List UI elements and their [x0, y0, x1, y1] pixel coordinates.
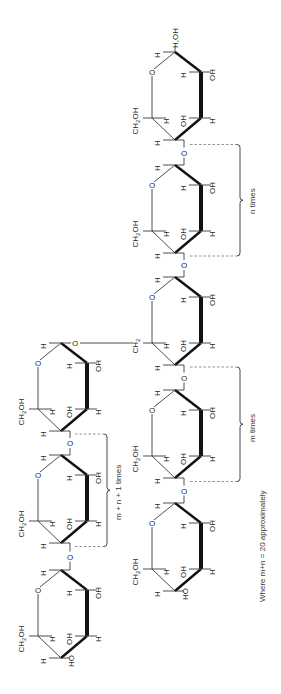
ring-oxygen: O: [35, 359, 41, 368]
hydroxyl-label: OH: [94, 587, 103, 599]
hydrogen-label: H: [208, 343, 217, 349]
ch2oh-group: CH2OH: [17, 625, 27, 652]
glycosidic-links: OOOOOOO: [61, 140, 187, 570]
hydrogen-label: H: [208, 569, 217, 575]
glucose-rings: OCH2OHHHOHOHHHH,OHHOCH2OHHHOHOHHHHOCH2HH…: [17, 28, 217, 667]
ch2oh-group: CH2OH: [131, 558, 141, 585]
ch2-group: CH2: [131, 338, 141, 354]
hydrogen-label: H: [48, 409, 57, 415]
hydroxyl-label: OH: [65, 518, 74, 530]
hydrogen-label: H: [179, 185, 188, 191]
hydrogen-label: H: [65, 363, 74, 369]
repeat-brackets: [75, 145, 243, 547]
hydroxyl-label: OH: [179, 115, 188, 127]
hydroxyl-label: OH: [208, 294, 217, 306]
hydrogen-label: H: [39, 570, 48, 576]
hydroxyl-label: OH: [179, 340, 188, 352]
hydroxyl-label: OH: [179, 453, 188, 465]
hydrogen-label: H: [94, 521, 103, 527]
hydroxyl-label: OH: [94, 360, 103, 372]
hydroxyl-label: OH: [65, 633, 74, 645]
hydrogen-label: H: [162, 231, 171, 237]
ch2oh-group: CH2OH: [131, 107, 141, 134]
n-times-label: n times: [248, 188, 257, 214]
hydrogen-label: H: [162, 118, 171, 124]
hydroxyl-label: OH: [208, 182, 217, 194]
hydrogen-label: H: [179, 297, 188, 303]
hydrogen-label: H: [153, 503, 162, 509]
ring-oxygen: O: [149, 519, 155, 528]
hydrogen-label: H: [153, 390, 162, 396]
hydrogen-label: H: [208, 456, 217, 462]
hydrogen-label: H: [153, 277, 162, 283]
ring-oxygen: O: [35, 471, 41, 480]
hydroxyl-label: OH: [65, 406, 74, 418]
hydrogen-label: H: [48, 636, 57, 642]
hydroxyl-label: OH: [208, 69, 217, 81]
ring-oxygen: O: [149, 181, 155, 190]
hydrogen-label: H: [39, 343, 48, 349]
ch2oh-group: CH2OH: [131, 445, 141, 472]
hydrogen-label: H: [94, 636, 103, 642]
ring-oxygen: O: [149, 293, 155, 302]
hydrogen-label: H: [153, 365, 162, 371]
glycogen-structure-diagram: OCH2OHHHOHOHHHH,OHHOCH2OHHHOHOHHHHOCH2HH…: [0, 0, 281, 694]
ring-oxygen: O: [35, 586, 41, 595]
main-glycosidic-oxygen: O: [181, 487, 187, 496]
hydrogen-label: H: [39, 543, 48, 549]
hydrogen-label: H: [208, 231, 217, 237]
hydrogen-label: H: [65, 590, 74, 596]
ch2oh-group: CH2OH: [131, 220, 141, 247]
main-glycosidic-oxygen: O: [181, 374, 187, 383]
hydrogen-label: H: [153, 52, 162, 58]
hydrogen-label: H: [39, 658, 48, 664]
hydrogen-label: H: [208, 118, 217, 124]
hydrogen-label: H: [39, 455, 48, 461]
branch-glycosidic-oxygen: O: [67, 439, 73, 448]
hydrogen-label: H: [153, 140, 162, 146]
hydrogen-label: H: [179, 410, 188, 416]
ring-oxygen: O: [149, 406, 155, 415]
m-n-1-times-label: m + n + 1 times: [114, 465, 123, 520]
hydrogen-label: H: [162, 456, 171, 462]
hydrogen-label: H: [153, 165, 162, 171]
hydroxyl-label: OH: [179, 566, 188, 578]
main-glycosidic-oxygen: O: [181, 149, 187, 158]
hydroxyl-label: OH: [94, 472, 103, 484]
footnote: Where m+n = 20 approximately: [258, 490, 267, 602]
hydrogen-label: H: [94, 409, 103, 415]
ch2oh-group: CH2OH: [17, 510, 27, 537]
hydrogen-label: H: [162, 343, 171, 349]
m-n-1-times-bracket: [104, 434, 110, 547]
n-times-bracket: [237, 145, 243, 257]
hydrogen-label: H: [65, 475, 74, 481]
hydroxyl-label: OH: [208, 407, 217, 419]
hydrogen-label: H: [39, 431, 48, 437]
hydrogen-label: H: [153, 253, 162, 259]
m-times-bracket: [237, 367, 243, 482]
hydrogen-label: H: [153, 478, 162, 484]
hydrogen-label: H: [162, 569, 171, 575]
hydrogen-label: H: [179, 523, 188, 529]
hydroxyl-label: OH: [179, 228, 188, 240]
branch-glycosidic-oxygen: O: [67, 553, 73, 562]
ch2oh-group: CH2OH: [17, 398, 27, 425]
hydrogen-label: H: [153, 591, 162, 597]
branch-link-oxygen: O: [72, 339, 78, 348]
hydrogen-label: H: [48, 521, 57, 527]
reducing-end-label: H,OH: [171, 28, 180, 48]
hydrogen-label: H: [179, 72, 188, 78]
hydroxyl-label: HO: [67, 655, 76, 667]
m-times-label: m times: [248, 414, 257, 442]
hydroxyl-label: HO: [181, 588, 190, 600]
ring-oxygen: O: [149, 68, 155, 77]
hydroxyl-label: OH: [208, 520, 217, 532]
main-glycosidic-oxygen: O: [181, 261, 187, 270]
